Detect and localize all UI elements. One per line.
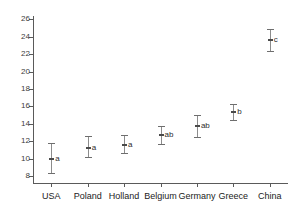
- x-tick-label-germany: Germany: [178, 192, 215, 201]
- mean-marker: [122, 144, 127, 146]
- x-tick-mark: [270, 183, 271, 187]
- x-tick-label-greece: Greece: [219, 192, 249, 201]
- y-axis-line: [33, 16, 34, 183]
- errorbar-cap-upper: [85, 136, 92, 137]
- errorbar-cap-upper: [158, 126, 165, 127]
- errorbar-cap-upper: [230, 104, 237, 105]
- significance-group-label-usa: a: [55, 155, 59, 163]
- errorbar-cap-lower: [121, 153, 128, 154]
- y-tick-label: 20: [21, 68, 30, 76]
- x-tick-label-poland: Poland: [74, 192, 102, 201]
- mean-marker: [159, 134, 164, 136]
- x-tick-mark: [161, 183, 162, 187]
- y-tick-label: 24: [21, 33, 30, 41]
- significance-group-label-poland: a: [92, 144, 96, 152]
- significance-group-label-germany: ab: [201, 122, 210, 130]
- significance-group-label-china: c: [274, 36, 278, 44]
- errorbar-cap-lower: [194, 137, 201, 138]
- errorbar-cap-lower: [48, 173, 55, 174]
- y-tick-label: 10: [21, 155, 30, 163]
- y-tick-label: 8: [26, 172, 30, 180]
- x-tick-label-belgium: Belgium: [144, 192, 177, 201]
- y-tick-label: 16: [21, 102, 30, 110]
- y-tick-label: 18: [21, 85, 30, 93]
- significance-group-label-holland: a: [128, 141, 132, 149]
- significance-group-label-belgium: ab: [165, 131, 174, 139]
- errorbar-cap-upper: [194, 115, 201, 116]
- errorbar-cap-upper: [121, 135, 128, 136]
- x-tick-label-usa: USA: [42, 192, 61, 201]
- chart-container: 8101214161820222426 USAPolandHollandBelg…: [0, 0, 294, 211]
- mean-marker: [195, 125, 200, 127]
- y-tick-label: 26: [21, 15, 30, 23]
- plot-area: 8101214161820222426 USAPolandHollandBelg…: [33, 16, 288, 183]
- x-tick-label-china: China: [258, 192, 282, 201]
- errorbar-cap-lower: [267, 51, 274, 52]
- errorbar-cap-upper: [267, 29, 274, 30]
- errorbar-cap-lower: [85, 157, 92, 158]
- significance-group-label-greece: b: [237, 108, 241, 116]
- x-tick-mark: [233, 183, 234, 187]
- y-tick-label: 22: [21, 50, 30, 58]
- mean-marker: [231, 111, 236, 113]
- x-tick-mark: [124, 183, 125, 187]
- errorbar-cap-upper: [48, 143, 55, 144]
- mean-marker: [86, 147, 91, 149]
- y-tick-label: 14: [21, 120, 30, 128]
- errorbar-cap-lower: [230, 120, 237, 121]
- errorbar-cap-lower: [158, 144, 165, 145]
- x-tick-mark: [197, 183, 198, 187]
- y-tick-label: 12: [21, 137, 30, 145]
- x-tick-label-holland: Holland: [109, 192, 140, 201]
- mean-marker: [268, 39, 273, 41]
- x-tick-mark: [51, 183, 52, 187]
- mean-marker: [49, 158, 54, 160]
- x-tick-mark: [88, 183, 89, 187]
